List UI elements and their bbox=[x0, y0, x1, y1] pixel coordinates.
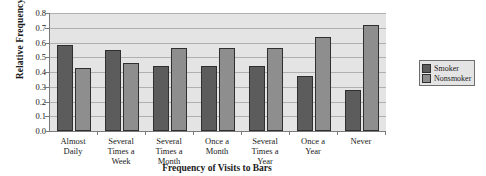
bar-nonsmoker bbox=[171, 48, 188, 131]
x-tick-label: Several Times a Month bbox=[145, 136, 193, 166]
x-tick-label: Several Times a Year bbox=[241, 136, 289, 166]
y-tick-label: 0.2 bbox=[16, 98, 46, 107]
x-tick-mark bbox=[337, 131, 338, 135]
bar-group bbox=[290, 13, 338, 131]
bar-smoker bbox=[249, 66, 266, 131]
x-tick-mark bbox=[289, 131, 290, 135]
y-tick-label: 0.8 bbox=[16, 9, 46, 18]
legend-label: Smoker bbox=[434, 64, 459, 73]
x-tick-label: Never bbox=[337, 136, 385, 146]
y-tick-label: 0.6 bbox=[16, 39, 46, 48]
x-tick-mark bbox=[241, 131, 242, 135]
legend-swatch-icon bbox=[422, 74, 431, 83]
bar-group bbox=[98, 13, 146, 131]
y-tick-label: 0.1 bbox=[16, 112, 46, 121]
plot-area bbox=[49, 13, 386, 132]
bar-group bbox=[242, 13, 290, 131]
y-tick-label: 0.3 bbox=[16, 83, 46, 92]
bar-smoker bbox=[57, 45, 74, 131]
x-tick-label: Once a Month bbox=[193, 136, 241, 156]
bar-smoker bbox=[297, 76, 314, 131]
bar-group bbox=[194, 13, 242, 131]
bar-nonsmoker bbox=[75, 68, 92, 131]
bar-nonsmoker bbox=[219, 48, 236, 131]
legend-item: Nonsmoker bbox=[422, 73, 471, 83]
x-tick-mark bbox=[385, 131, 386, 135]
bar-nonsmoker bbox=[123, 63, 140, 131]
legend-swatch-icon bbox=[422, 64, 431, 73]
x-tick-label: Almost Daily bbox=[49, 136, 97, 156]
bar-smoker bbox=[105, 50, 122, 131]
x-tick-mark bbox=[97, 131, 98, 135]
bar-chart: Relative Frequency 0.00.10.20.30.40.50.6… bbox=[0, 0, 486, 176]
bar-nonsmoker bbox=[363, 25, 380, 131]
y-tick-label: 0.0 bbox=[16, 127, 46, 136]
bar-group bbox=[146, 13, 194, 131]
x-tick-label: Once a Year bbox=[289, 136, 337, 156]
y-tick-label: 0.4 bbox=[16, 68, 46, 77]
x-tick-label: Several Times a Week bbox=[97, 136, 145, 166]
y-tick-label: 0.7 bbox=[16, 24, 46, 33]
bar-smoker bbox=[201, 66, 218, 131]
bar-smoker bbox=[153, 66, 170, 131]
bar-group bbox=[50, 13, 98, 131]
bar-nonsmoker bbox=[315, 37, 332, 131]
bar-smoker bbox=[345, 90, 362, 131]
bar-nonsmoker bbox=[267, 48, 284, 131]
x-tick-mark bbox=[145, 131, 146, 135]
legend-item: Smoker bbox=[422, 63, 471, 73]
y-tick-label: 0.5 bbox=[16, 53, 46, 62]
legend-label: Nonsmoker bbox=[434, 74, 471, 83]
x-axis-title: Frequency of Visits to Bars bbox=[49, 163, 385, 173]
x-tick-mark bbox=[193, 131, 194, 135]
bar-group bbox=[338, 13, 386, 131]
legend: SmokerNonsmoker bbox=[419, 60, 475, 86]
